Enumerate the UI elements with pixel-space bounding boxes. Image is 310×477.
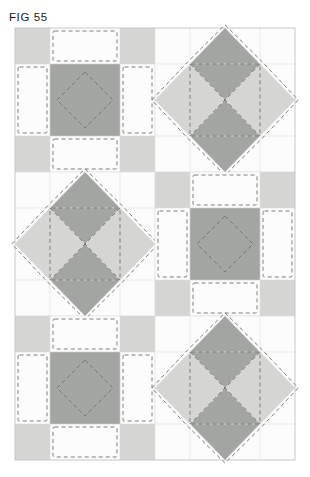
quilt-block-eight-point-star xyxy=(12,169,158,319)
patch-corner-tl xyxy=(15,28,50,64)
patch-side-bottom xyxy=(50,136,120,172)
patch-side-top xyxy=(190,172,260,208)
quilt-block-nine-patch-square xyxy=(15,28,155,172)
patch-corner-bl xyxy=(15,136,50,172)
patch-corner-tr xyxy=(260,172,295,208)
quilt-diagram xyxy=(0,0,310,477)
patch-side-right xyxy=(120,352,155,424)
patch-corner-br xyxy=(120,136,155,172)
patch-side-right xyxy=(120,64,155,136)
patch-side-bottom xyxy=(190,280,260,316)
patch-side-top xyxy=(50,28,120,64)
patch-corner-br xyxy=(120,424,155,460)
quilt-block-nine-patch-square xyxy=(155,172,295,316)
patch-center-square xyxy=(190,208,260,280)
quilt-block-nine-patch-square xyxy=(15,316,155,460)
patch-side-right xyxy=(260,208,295,280)
patch-side-left xyxy=(15,64,50,136)
patch-side-bottom xyxy=(50,424,120,460)
patch-corner-bl xyxy=(155,280,190,316)
patch-side-left xyxy=(15,352,50,424)
patch-corner-tr xyxy=(120,316,155,352)
patch-corner-tl xyxy=(15,316,50,352)
patch-corner-br xyxy=(260,280,295,316)
quilt-block-eight-point-star xyxy=(152,25,298,175)
patch-corner-tl xyxy=(155,172,190,208)
quilt-block-eight-point-star xyxy=(152,313,298,463)
patch-side-left xyxy=(155,208,190,280)
patch-side-top xyxy=(50,316,120,352)
patch-center-square xyxy=(50,352,120,424)
patch-corner-bl xyxy=(15,424,50,460)
patch-center-square xyxy=(50,64,120,136)
patch-corner-tr xyxy=(120,28,155,64)
figure-container: FIG 55 xyxy=(0,0,310,477)
